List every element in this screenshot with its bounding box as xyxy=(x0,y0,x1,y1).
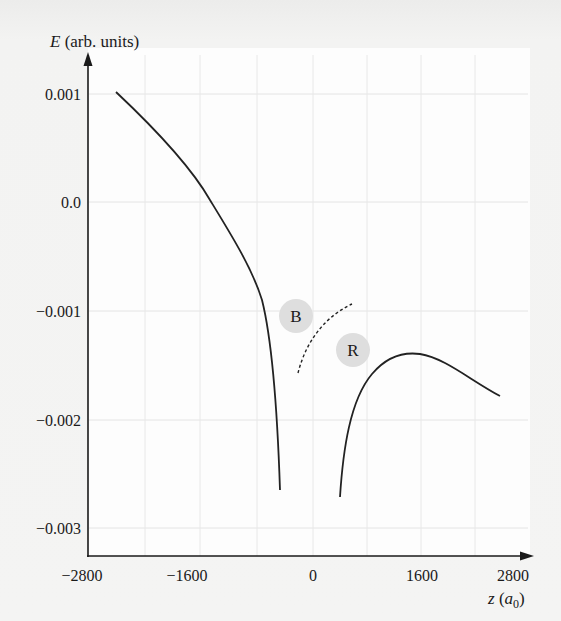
right-branch-curve xyxy=(340,353,500,497)
y-tick-label: −0.001 xyxy=(36,303,81,320)
marker-r: R xyxy=(336,333,370,367)
marker-r-label: R xyxy=(347,341,359,360)
y-tick-label: −0.003 xyxy=(36,520,81,537)
y-axis-variable: E xyxy=(49,32,61,51)
x-tick-label: 2800 xyxy=(497,567,529,584)
left-branch-curve xyxy=(116,92,280,490)
y-axis-title: E (arb. units) xyxy=(49,32,139,51)
y-axis xyxy=(84,52,93,557)
x-tick-label: 1600 xyxy=(406,567,438,584)
x-axis xyxy=(87,552,534,561)
marker-b-label: B xyxy=(290,307,301,326)
y-axis-arrow-icon xyxy=(84,52,93,66)
x-tick-label: −2800 xyxy=(61,567,102,584)
y-tick-label: −0.002 xyxy=(36,412,81,429)
marker-b: B xyxy=(279,299,313,333)
x-axis-paren-close: ) xyxy=(519,589,525,608)
y-tick-labels: 0.001 0.0 −0.001 −0.002 −0.003 xyxy=(36,86,81,537)
x-axis-unit-a: a xyxy=(505,589,514,608)
y-tick-label: 0.001 xyxy=(45,86,81,103)
x-axis-title: z (a0) xyxy=(487,589,525,611)
x-tick-label: −1600 xyxy=(166,567,207,584)
vertical-gridlines xyxy=(145,55,475,556)
x-axis-paren-open: ( xyxy=(495,589,505,608)
x-axis-arrow-icon xyxy=(520,552,534,561)
y-axis-units: (arb. units) xyxy=(60,32,139,51)
chart: 0.001 0.0 −0.001 −0.002 −0.003 −2800 −16… xyxy=(0,0,561,621)
y-tick-label: 0.0 xyxy=(61,194,81,211)
x-tick-label: 0 xyxy=(309,567,317,584)
x-tick-labels: −2800 −1600 0 1600 2800 xyxy=(61,567,529,584)
